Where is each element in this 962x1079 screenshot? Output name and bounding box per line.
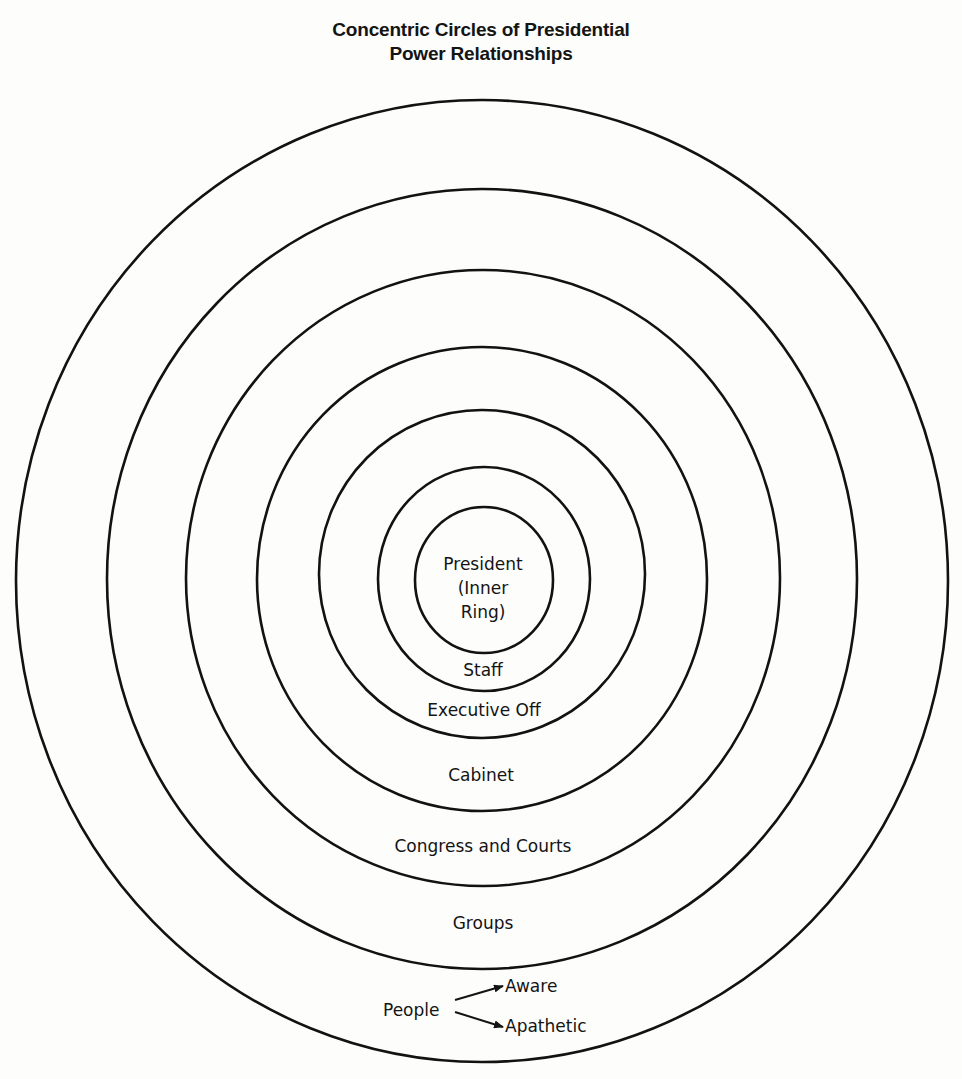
label-president-ring: Ring) <box>461 602 506 622</box>
arrow-to-apathetic-icon <box>455 1012 503 1027</box>
label-groups: Groups <box>453 913 514 933</box>
ring-executive-office <box>319 410 645 738</box>
label-apathetic: Apathetic <box>505 1016 586 1036</box>
concentric-circles-diagram: President (Inner Ring) Staff Executive O… <box>0 0 962 1079</box>
label-congress-courts: Congress and Courts <box>395 836 572 856</box>
label-cabinet: Cabinet <box>448 765 514 785</box>
label-staff: Staff <box>463 660 504 680</box>
label-people: People <box>383 1000 439 1020</box>
label-president-inner: (Inner <box>458 578 509 598</box>
label-aware: Aware <box>505 976 557 996</box>
diagram-page: Concentric Circles of Presidential Power… <box>0 0 962 1079</box>
label-president: President <box>443 554 523 574</box>
arrow-to-aware-icon <box>455 986 503 1000</box>
people-arrows <box>455 986 503 1027</box>
label-executive-office: Executive Off <box>427 700 542 720</box>
